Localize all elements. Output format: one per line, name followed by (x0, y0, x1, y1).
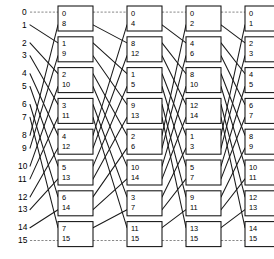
input-label-10: 10 (18, 161, 28, 171)
switch-box-bottom-label: 7 (190, 173, 194, 182)
switch-box-s1-2[interactable]: 210 (58, 68, 93, 93)
switch-box-top-label: 1 (190, 132, 194, 141)
switch-box-s3-1[interactable]: 46 (186, 37, 221, 62)
switch-box-bottom-label: 13 (131, 111, 139, 120)
switch-box-top-label: 4 (62, 132, 66, 141)
switch-box-s4-3[interactable]: 67 (245, 98, 274, 123)
switch-box-s2-7[interactable]: 1115 (127, 222, 162, 247)
input-label-15: 15 (18, 235, 28, 245)
switch-box-top-label: 14 (249, 224, 257, 233)
switch-box-s1-7[interactable]: 715 (58, 222, 93, 247)
switch-box-top-label: 2 (131, 132, 135, 141)
input-wire-9 (30, 56, 58, 148)
switch-box-top-label: 6 (249, 101, 253, 110)
switch-box-s2-5[interactable]: 1014 (127, 160, 162, 185)
switch-box-s3-2[interactable]: 810 (186, 68, 221, 93)
switch-box-top-label: 4 (190, 39, 194, 48)
link-s1-s2-line-12 (93, 56, 127, 148)
switch-box-top-label: 12 (249, 193, 257, 202)
switch-box-top-label: 8 (131, 39, 135, 48)
switch-box-s4-6[interactable]: 1213 (245, 191, 274, 216)
switch-box-s4-0[interactable]: 01 (245, 6, 274, 31)
switch-box-s1-4[interactable]: 412 (58, 129, 93, 154)
switch-box-s1-3[interactable]: 311 (58, 98, 93, 123)
switch-box-bottom-label: 9 (249, 142, 253, 151)
switch-box-top-label: 11 (131, 224, 139, 233)
switch-box-bottom-label: 12 (131, 49, 139, 58)
switch-box-bottom-label: 13 (249, 203, 257, 212)
switch-box-bottom-label: 15 (190, 234, 198, 243)
input-label-4: 4 (22, 68, 27, 78)
switch-box-bottom-label: 13 (62, 173, 70, 182)
switch-box-s2-3[interactable]: 913 (127, 98, 162, 123)
switch-box-top-label: 8 (249, 132, 253, 141)
switch-box-bottom-label: 14 (62, 203, 70, 212)
switch-box-s2-1[interactable]: 812 (127, 37, 162, 62)
switch-box-bottom-label: 11 (249, 173, 257, 182)
switch-box-s3-5[interactable]: 57 (186, 160, 221, 185)
switch-box-top-label: 10 (249, 163, 257, 172)
link-s1-s2-line-8 (93, 25, 127, 43)
switch-box-top-label: 3 (131, 193, 135, 202)
link-s1-s2-line-14 (93, 179, 127, 210)
switch-box-bottom-label: 11 (190, 203, 198, 212)
switch-box-s2-6[interactable]: 37 (127, 191, 162, 216)
input-label-1: 1 (22, 20, 27, 30)
input-label-14: 14 (18, 222, 28, 232)
switch-box-top-label: 10 (131, 163, 139, 172)
switch-box-bottom-label: 9 (62, 49, 66, 58)
switch-box-s1-6[interactable]: 614 (58, 191, 93, 216)
switch-box-s1-0[interactable]: 08 (58, 6, 93, 31)
switch-box-top-label: 5 (190, 163, 194, 172)
switch-box-s3-3[interactable]: 1214 (186, 98, 221, 123)
input-label-6: 6 (22, 99, 27, 109)
switch-box-bottom-label: 3 (249, 49, 253, 58)
input-label-5: 5 (22, 81, 27, 91)
figure-canvas: 0819210311412513614715048121591326101437… (0, 0, 274, 259)
switch-box-bottom-label: 15 (249, 234, 257, 243)
link-s3-s4-line-2 (221, 25, 245, 43)
switch-box-top-label: 0 (62, 9, 66, 18)
link-s2-s3-line-13 (162, 117, 186, 227)
switch-box-bottom-label: 8 (62, 19, 66, 28)
switch-box-s1-5[interactable]: 513 (58, 160, 93, 185)
switch-box-s3-0[interactable]: 02 (186, 6, 221, 31)
switch-box-s4-5[interactable]: 1011 (245, 160, 274, 185)
switch-box-s2-4[interactable]: 26 (127, 129, 162, 154)
switch-box-s4-1[interactable]: 23 (245, 37, 274, 62)
switch-box-s1-1[interactable]: 19 (58, 37, 93, 62)
switch-box-top-label: 7 (62, 224, 66, 233)
switch-box-bottom-label: 1 (249, 19, 253, 28)
switch-box-s3-7[interactable]: 1315 (186, 222, 221, 247)
input-label-0: 0 (22, 7, 27, 17)
switch-box-bottom-label: 14 (190, 111, 198, 120)
switch-box-s4-2[interactable]: 45 (245, 68, 274, 93)
switch-box-top-label: 9 (131, 101, 135, 110)
switch-box-bottom-label: 2 (190, 19, 194, 28)
switch-box-s2-2[interactable]: 15 (127, 68, 162, 93)
switch-box-top-label: 1 (131, 70, 135, 79)
input-wire-13 (30, 179, 58, 210)
switch-box-top-label: 5 (62, 163, 66, 172)
switch-box-bottom-label: 10 (62, 80, 70, 89)
switch-box-bottom-label: 12 (62, 142, 70, 151)
switch-box-top-label: 6 (62, 193, 66, 202)
switch-box-bottom-label: 6 (190, 49, 194, 58)
switch-box-top-label: 8 (190, 70, 194, 79)
switch-box-s3-4[interactable]: 13 (186, 129, 221, 154)
switch-box-bottom-label: 4 (131, 19, 135, 28)
link-s3-s4-line-12 (221, 105, 245, 197)
switch-box-bottom-label: 7 (249, 111, 253, 120)
link-s3-s4-line-4 (221, 43, 245, 74)
switch-box-top-label: 0 (190, 9, 194, 18)
input-label-9: 9 (22, 143, 27, 153)
switch-box-s4-7[interactable]: 1415 (245, 222, 274, 247)
switch-box-top-label: 9 (190, 193, 194, 202)
link-s2-s3-line-4 (162, 25, 186, 43)
switch-box-bottom-label: 3 (190, 142, 194, 151)
switch-box-s2-0[interactable]: 04 (127, 6, 162, 31)
butterfly-network-svg: 0819210311412513614715048121591326101437… (0, 0, 274, 259)
input-wire-14 (30, 210, 58, 228)
switch-box-s3-6[interactable]: 911 (186, 191, 221, 216)
switch-box-s4-4[interactable]: 89 (245, 129, 274, 154)
